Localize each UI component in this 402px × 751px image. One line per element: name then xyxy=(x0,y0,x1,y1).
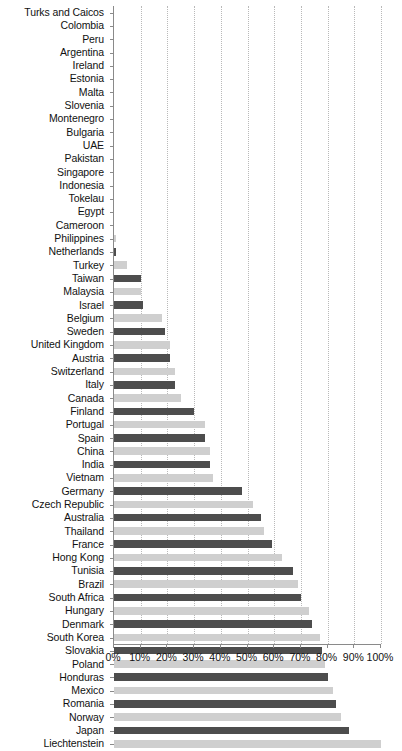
category-tick xyxy=(110,199,114,200)
bar xyxy=(114,394,181,402)
bar-row xyxy=(114,458,381,471)
bar xyxy=(114,740,381,748)
x-tick-label: 70% xyxy=(289,651,310,663)
category-label: Slovakia xyxy=(0,644,108,657)
x-tick xyxy=(327,644,328,648)
bar xyxy=(114,567,293,575)
category-label: India xyxy=(0,458,108,471)
bar-row xyxy=(114,86,381,99)
category-label: Poland xyxy=(0,658,108,671)
x-tick-label: 20% xyxy=(156,651,177,663)
bar-row xyxy=(114,432,381,445)
category-tick xyxy=(110,26,114,27)
bar-row xyxy=(114,551,381,564)
bar-row xyxy=(114,578,381,591)
bar-row xyxy=(114,604,381,617)
category-tick xyxy=(110,212,114,213)
bar-row xyxy=(114,312,381,325)
bar xyxy=(114,275,141,283)
category-label: South Africa xyxy=(0,591,108,604)
bar-row xyxy=(114,46,381,59)
x-tick-label: 40% xyxy=(209,651,230,663)
bar-row xyxy=(114,511,381,524)
x-tick xyxy=(273,644,274,648)
x-tick-label: 100% xyxy=(367,651,394,663)
bar-row xyxy=(114,498,381,511)
x-tick xyxy=(140,644,141,648)
bar-row xyxy=(114,59,381,72)
plot-area xyxy=(113,6,381,644)
bar xyxy=(114,261,127,269)
bar xyxy=(114,554,282,562)
category-label: Pakistan xyxy=(0,152,108,165)
category-tick xyxy=(110,53,114,54)
bar-row xyxy=(114,219,381,232)
category-label: Argentina xyxy=(0,46,108,59)
category-label: Netherlands xyxy=(0,245,108,258)
bar-row xyxy=(114,631,381,644)
bar xyxy=(114,713,341,721)
category-label: France xyxy=(0,538,108,551)
bar xyxy=(114,474,213,482)
category-label: Colombia xyxy=(0,19,108,32)
bar-row xyxy=(114,33,381,46)
category-tick xyxy=(110,39,114,40)
bar-row xyxy=(114,737,381,750)
x-tick xyxy=(113,644,114,648)
category-label: Hong Kong xyxy=(0,551,108,564)
x-tick xyxy=(220,644,221,648)
x-tick xyxy=(300,644,301,648)
category-label: Thailand xyxy=(0,525,108,538)
bar-row xyxy=(114,19,381,32)
bar-row xyxy=(114,166,381,179)
bar xyxy=(114,408,194,416)
category-tick xyxy=(110,106,114,107)
bar-row xyxy=(114,192,381,205)
bar-row xyxy=(114,538,381,551)
bar xyxy=(114,288,141,296)
bar-row xyxy=(114,285,381,298)
category-label: Cameroon xyxy=(0,219,108,232)
bar-row xyxy=(114,697,381,710)
category-tick xyxy=(110,146,114,147)
category-tick xyxy=(110,159,114,160)
category-label: Estonia xyxy=(0,72,108,85)
category-label: China xyxy=(0,445,108,458)
category-label: Liechtenstein xyxy=(0,737,108,750)
category-label: Honduras xyxy=(0,671,108,684)
bar xyxy=(114,700,336,708)
category-label: Australia xyxy=(0,511,108,524)
category-label: Italy xyxy=(0,378,108,391)
x-tick-label: 30% xyxy=(183,651,204,663)
category-label: Germany xyxy=(0,485,108,498)
category-label: Belgium xyxy=(0,312,108,325)
category-label: Finland xyxy=(0,405,108,418)
bar xyxy=(114,461,210,469)
category-label: Vietnam xyxy=(0,471,108,484)
bar-row xyxy=(114,6,381,19)
category-label: South Korea xyxy=(0,631,108,644)
category-tick xyxy=(110,92,114,93)
bar xyxy=(114,527,264,535)
x-tick-label: 50% xyxy=(236,651,257,663)
gridline xyxy=(381,6,382,644)
bar-row xyxy=(114,684,381,697)
bar-row xyxy=(114,205,381,218)
category-label: Japan xyxy=(0,724,108,737)
category-label: Norway xyxy=(0,711,108,724)
bar-row xyxy=(114,179,381,192)
category-label: Portugal xyxy=(0,418,108,431)
bar-row xyxy=(114,365,381,378)
category-tick xyxy=(110,119,114,120)
category-label: Malta xyxy=(0,86,108,99)
category-tick xyxy=(110,186,114,187)
category-label: Bulgaria xyxy=(0,126,108,139)
bar-series xyxy=(114,6,381,644)
category-label: United Kingdom xyxy=(0,338,108,351)
category-tick xyxy=(110,172,114,173)
bar xyxy=(114,580,298,588)
bar-row xyxy=(114,299,381,312)
bar-row xyxy=(114,392,381,405)
category-tick xyxy=(110,66,114,67)
